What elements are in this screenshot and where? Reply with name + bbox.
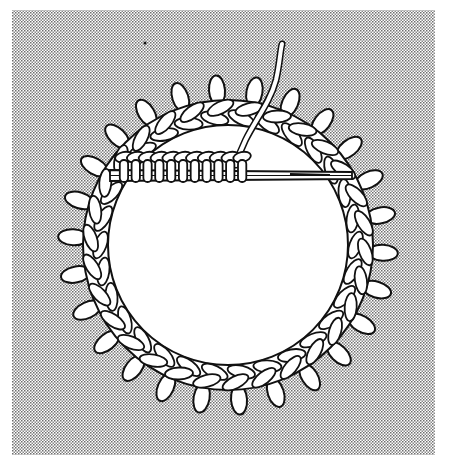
speck — [144, 42, 147, 45]
stitch-post — [167, 160, 175, 182]
stitch-row — [114, 150, 252, 182]
stitch-post — [143, 160, 151, 182]
stitch-post — [179, 160, 187, 182]
stitch-post — [120, 160, 128, 182]
chain-link — [263, 110, 291, 123]
stitch-post — [155, 160, 163, 182]
stitch-post — [132, 160, 140, 182]
crochet-ring-illustration — [0, 0, 451, 475]
stitch-post — [191, 160, 199, 182]
stitch-post — [226, 160, 234, 182]
stitch-post — [238, 160, 246, 182]
chain-link — [165, 367, 193, 380]
stitch-post — [214, 160, 222, 182]
stitch-post — [203, 160, 211, 182]
